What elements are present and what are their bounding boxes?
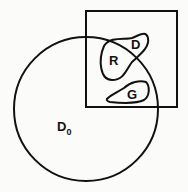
label-d: D — [131, 37, 140, 52]
label-r: R — [109, 53, 119, 68]
label-g: G — [127, 87, 137, 102]
label-d0: D0 — [57, 119, 71, 137]
diagram-canvas: D0 R D G — [0, 0, 188, 192]
